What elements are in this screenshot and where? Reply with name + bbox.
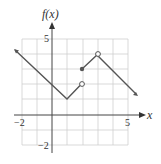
tick-x-neg: −2 xyxy=(14,117,25,128)
y-axis-label: f(x) xyxy=(42,7,59,21)
open-point-2-2 xyxy=(80,82,85,87)
grid xyxy=(22,39,128,145)
y-axis-arrow-icon xyxy=(49,22,55,29)
closed-point-2-3 xyxy=(80,67,84,71)
tick-y-neg: −2 xyxy=(38,140,49,151)
open-point-3-4 xyxy=(96,52,101,57)
function-graph: f(x) x −2 5 5 −2 xyxy=(0,0,161,164)
tick-y-pos: 5 xyxy=(44,33,49,44)
tick-x-pos: 5 xyxy=(125,117,130,128)
x-axis-arrow-icon xyxy=(139,112,146,118)
axes xyxy=(14,27,143,153)
piece-1-line xyxy=(15,50,80,99)
x-axis-label: x xyxy=(146,108,153,122)
